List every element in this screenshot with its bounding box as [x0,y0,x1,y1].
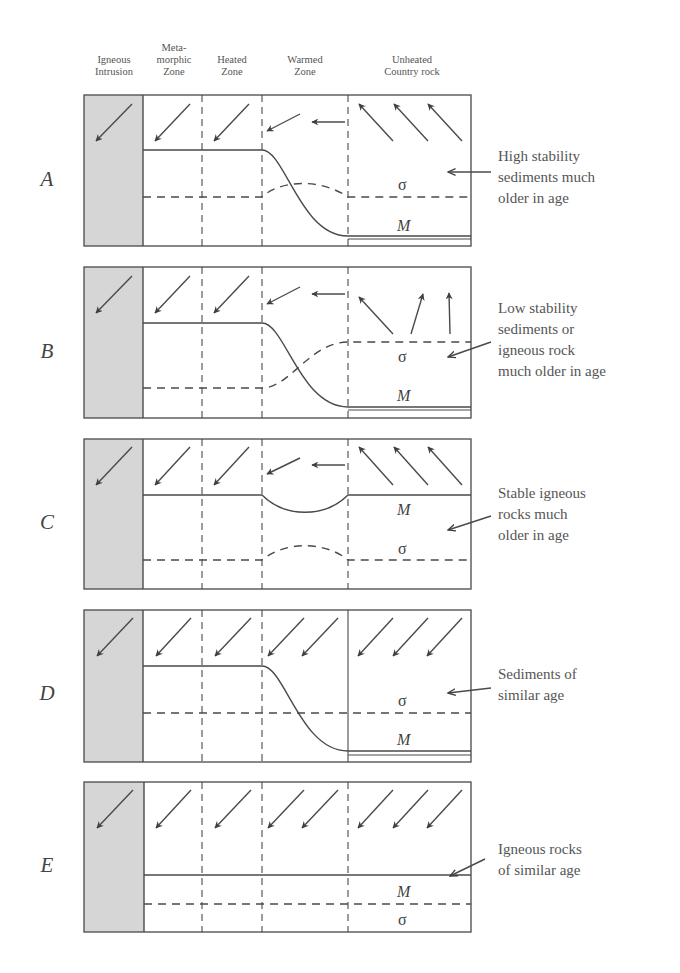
symbol-sigma: σ [398,348,407,365]
symbol-sigma: σ [398,911,407,928]
symbol-sigma: σ [398,540,407,557]
stability-curve [143,183,471,197]
symbol-m: M [396,501,412,518]
panel-e [84,782,485,932]
symbol-sigma: σ [398,176,407,193]
igneous-intrusion-fill [84,95,143,246]
magnetization-curve [143,150,471,236]
symbol-m: M [396,387,412,404]
magnetization-arrows [96,104,462,141]
panel-d [84,610,491,762]
symbol-m: M [396,731,412,748]
panel-c [84,439,491,589]
symbol-sigma: σ [398,692,407,709]
symbol-m: M [396,883,412,900]
diagram-panels: σ M σ M M σ σ M M σ [0,0,680,973]
symbol-m: M [396,217,412,234]
panel-a [84,95,491,246]
panel-b [84,267,491,418]
